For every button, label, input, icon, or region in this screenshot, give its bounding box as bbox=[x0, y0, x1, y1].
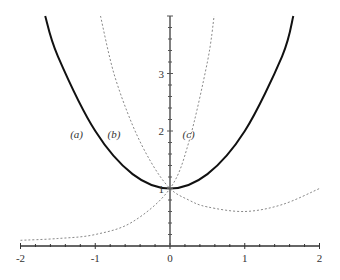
curve-label: (c) bbox=[183, 128, 196, 141]
x-tick-label: -2 bbox=[16, 252, 25, 264]
x-tick-label: 0 bbox=[167, 252, 173, 264]
curve-label: (b) bbox=[108, 128, 121, 141]
curve-label: (a) bbox=[70, 128, 83, 141]
y-tick-label: 3 bbox=[159, 68, 165, 80]
x-tick-label: 2 bbox=[317, 252, 323, 264]
chart: -2-1012123(a)(b)(c) bbox=[0, 0, 340, 280]
x-tick-label: -1 bbox=[91, 252, 100, 264]
y-tick-label: 2 bbox=[159, 125, 165, 137]
axes bbox=[21, 16, 320, 249]
y-tick-label: 1 bbox=[159, 183, 165, 195]
x-tick-label: 1 bbox=[242, 252, 248, 264]
